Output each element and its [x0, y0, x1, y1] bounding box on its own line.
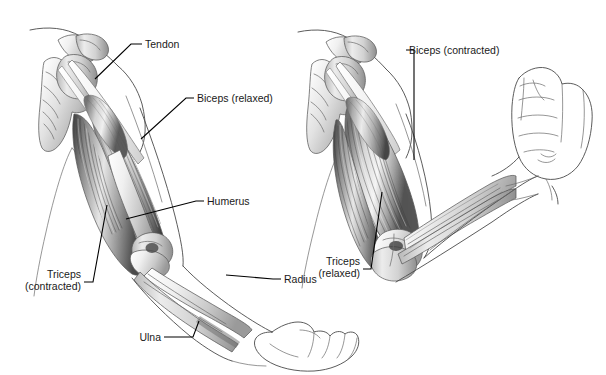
label-triceps-contracted-line1: Triceps	[47, 268, 81, 280]
label-triceps-relaxed-line2: (relaxed)	[319, 267, 360, 279]
label-radius: Radius	[284, 273, 317, 285]
label-tendon: Tendon	[145, 38, 180, 50]
label-triceps-contracted-line2: (contracted)	[25, 280, 81, 292]
anatomy-figure: Tendon Biceps (relaxed) Humerus Triceps …	[0, 0, 606, 375]
label-humerus: Humerus	[207, 195, 250, 207]
label-biceps-relaxed: Biceps (relaxed)	[197, 92, 273, 104]
label-triceps-relaxed-line1: Triceps	[326, 255, 360, 267]
label-ulna: Ulna	[139, 331, 161, 343]
label-biceps-contracted: Biceps (contracted)	[409, 44, 499, 56]
anatomy-svg: Tendon Biceps (relaxed) Humerus Triceps …	[0, 0, 606, 375]
